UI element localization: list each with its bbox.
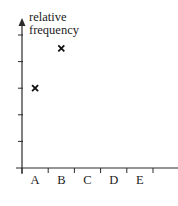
x-tick-label: C (83, 173, 91, 187)
x-tick-label: B (57, 173, 65, 187)
x-tick-label: D (109, 173, 118, 187)
x-marker-icon (32, 85, 38, 91)
y-axis (18, 18, 26, 174)
x-axis (16, 168, 178, 173)
x-tick-labels: ABCDE (31, 173, 144, 187)
y-axis-label: relative frequency (29, 10, 80, 37)
data-points (32, 45, 64, 91)
y-axis-label-line-2: frequency (29, 23, 80, 37)
x-tick-label: E (136, 173, 144, 187)
x-marker-icon (58, 45, 64, 51)
x-tick-label: A (31, 173, 40, 187)
chart: relative frequency ABCDE (0, 0, 178, 206)
y-axis-label-line-1: relative (29, 10, 67, 24)
y-axis-arrow-icon (19, 18, 26, 26)
